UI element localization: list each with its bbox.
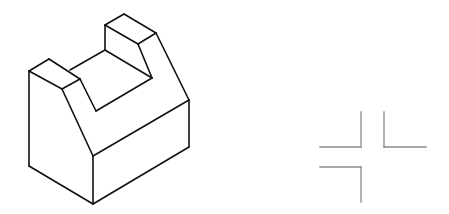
- object-edge: [93, 100, 189, 156]
- object-edge: [80, 79, 96, 111]
- object-edge: [49, 59, 80, 79]
- object-edge: [93, 147, 189, 204]
- object-edge: [105, 25, 138, 44]
- object-edge: [105, 50, 152, 78]
- object-edge: [62, 79, 80, 89]
- object-edge: [70, 50, 105, 70]
- drawing-canvas: [0, 0, 449, 214]
- object-edge: [138, 33, 156, 44]
- object-edge: [29, 166, 93, 204]
- view-placement-marks: [320, 112, 426, 202]
- object-edge: [124, 14, 156, 33]
- object-edge: [105, 14, 124, 25]
- object-edge: [96, 78, 152, 111]
- object-edge: [29, 59, 49, 71]
- isometric-block-drawing: [29, 14, 189, 204]
- object-edge: [62, 89, 93, 156]
- object-edge: [156, 33, 189, 100]
- object-edge: [29, 71, 62, 89]
